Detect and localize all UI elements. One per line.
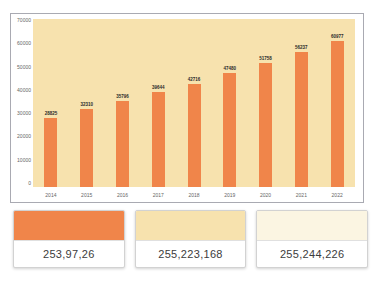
bar [259,63,272,187]
bar [80,109,93,187]
bar-value-label: 32310 [80,102,93,107]
bar-value-label: 35796 [116,94,129,99]
color-swatch-cards: 253,97,26255,223,168255,244,226 [13,210,368,268]
rgb-value-label: 255,244,226 [257,241,367,267]
rgb-value-label: 255,223,168 [136,241,246,267]
bar-slot: 56237 [283,19,319,187]
bar [331,41,344,187]
bar-value-label: 47480 [224,66,237,71]
x-axis-tick-labels: 201420152016201720182019202020212022 [33,189,355,201]
bar [223,73,236,187]
bar-slot: 47480 [212,19,248,187]
bar-slot: 39644 [140,19,176,187]
bar [188,84,201,187]
bar [295,52,308,187]
y-tick-label: 20000 [17,134,31,139]
bar-slot: 42716 [176,19,212,187]
color-swatch-card: 255,223,168 [135,210,247,268]
y-tick-label: 50000 [17,65,31,70]
bar [44,118,57,187]
bar-slot: 35796 [105,19,141,187]
bar-value-label: 51758 [259,56,272,61]
color-swatch-card: 255,244,226 [256,210,368,268]
bar-chart-card: 700006000050000400003000020000100000 288… [10,13,364,203]
x-tick-label: 2020 [248,192,284,198]
color-swatch [14,211,124,241]
plot-area: 700006000050000400003000020000100000 288… [33,19,355,187]
x-tick-label: 2016 [105,192,141,198]
bar-slot: 60977 [319,19,355,187]
y-tick-label: 70000 [17,18,31,23]
bar [152,92,165,187]
bar [116,101,129,187]
x-tick-label: 2019 [212,192,248,198]
bar-slot: 28825 [33,19,69,187]
bar-value-label: 28825 [45,111,58,116]
x-tick-label: 2014 [33,192,69,198]
bar-value-label: 56237 [295,45,308,50]
x-tick-label: 2017 [140,192,176,198]
bars-row: 2882532310357963964442716474805175856237… [33,19,355,187]
x-tick-label: 2015 [69,192,105,198]
x-tick-label: 2022 [319,192,355,198]
bar-value-label: 60977 [331,34,344,39]
y-tick-label: 10000 [17,158,31,163]
color-swatch [257,211,367,241]
x-tick-label: 2021 [283,192,319,198]
y-tick-label: 30000 [17,111,31,116]
bar-slot: 51758 [248,19,284,187]
color-swatch [136,211,246,241]
x-tick-label: 2018 [176,192,212,198]
y-axis-tick-labels: 700006000050000400003000020000100000 [13,19,31,187]
rgb-value-label: 253,97,26 [14,241,124,267]
color-swatch-card: 253,97,26 [13,210,125,268]
bar-slot: 32310 [69,19,105,187]
bar-value-label: 39644 [152,85,165,90]
bar-value-label: 42716 [188,77,201,82]
y-tick-label: 0 [28,181,31,186]
y-tick-label: 60000 [17,41,31,46]
y-tick-label: 40000 [17,88,31,93]
